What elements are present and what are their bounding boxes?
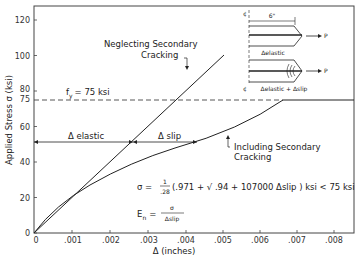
- y-tick-40: 40: [20, 158, 30, 167]
- x-tick-004: .004: [177, 236, 195, 245]
- y-tick-20: 20: [20, 194, 30, 203]
- x-tick-002: .002: [102, 236, 120, 245]
- y-tick-120: 120: [15, 16, 30, 25]
- y-axis-label: Applied Stress σ (ksi): [4, 75, 14, 165]
- neglecting-label-line1: Neglecting Secondary: [104, 39, 197, 49]
- neglecting-leader-arrow-icon: [185, 66, 189, 70]
- x-tick-001: .001: [64, 236, 82, 245]
- svg-text:¢: ¢: [243, 85, 247, 92]
- x-axis-label: Δ (inches): [153, 246, 196, 256]
- arrow-slip-start-icon: [133, 140, 137, 144]
- including-label-line1: Including Secondary: [234, 142, 321, 152]
- neglecting-label-line2: Cracking: [141, 50, 178, 60]
- arrow-slip-end-icon: [193, 140, 197, 144]
- case1-label: Δelastic: [261, 49, 285, 56]
- y-tick-labels: 0 20 40 60 75 80 100 120: [15, 16, 30, 238]
- svg-text:.28: .28: [160, 188, 170, 195]
- en-equation: En= σ Δslip: [137, 204, 184, 223]
- svg-text:En=: En=: [137, 209, 156, 221]
- length-label: 6": [269, 12, 276, 19]
- svg-text:σ: σ: [170, 204, 174, 211]
- x-tick-0: 0: [33, 236, 38, 245]
- delta-slip-label: Δ slip: [158, 131, 181, 141]
- including-label-line2: Cracking: [234, 152, 271, 162]
- including-secondary-cracking-curve: [34, 100, 354, 233]
- chart: 0 20 40 60 75 80 100 120 0 .001 .002 .00…: [0, 0, 358, 260]
- arrow-left-icon: [34, 140, 38, 144]
- y-tick-80: 80: [20, 85, 30, 94]
- x-tick-003: .003: [140, 236, 158, 245]
- load-arrow-icon: [318, 34, 322, 38]
- svg-text:σ =: σ =: [137, 182, 152, 192]
- fy-label: fy= 75 ksi: [66, 87, 110, 100]
- x-tick-006: .006: [251, 236, 269, 245]
- x-tick-008: .008: [325, 236, 343, 245]
- svg-text:P: P: [324, 32, 328, 39]
- svg-text:1: 1: [163, 178, 167, 185]
- x-tick-labels: 0 .001 .002 .003 .004 .005 .006 .007 .00…: [33, 236, 342, 245]
- svg-text:(.971 + √ .94 + 107000 Δslip ): (.971 + √ .94 + 107000 Δslip ) ksi < 75 …: [172, 182, 355, 192]
- svg-text:P: P: [324, 67, 328, 74]
- sigma-equation: σ = 1 .28 (.971 + √ .94 + 107000 Δslip )…: [137, 178, 355, 195]
- y-tick-0: 0: [25, 229, 30, 238]
- case2-label: Δelastic + Δslip: [261, 85, 308, 93]
- y-tick-75: 75: [20, 95, 30, 104]
- delta-elastic-label: Δ elastic: [68, 131, 104, 141]
- including-leader-arrow-icon: [226, 135, 230, 139]
- svg-text:¢: ¢: [243, 10, 247, 17]
- y-tick-60: 60: [20, 123, 30, 132]
- y-tick-100: 100: [15, 52, 30, 61]
- x-tick-005: .005: [214, 236, 232, 245]
- inset-diagram: ¢ ¢ 6" P Δelastic P Δelastic + Δslip: [243, 10, 328, 93]
- svg-text:Δslip: Δslip: [165, 215, 180, 223]
- load-arrow-icon: [318, 69, 322, 73]
- x-tick-007: .007: [288, 236, 306, 245]
